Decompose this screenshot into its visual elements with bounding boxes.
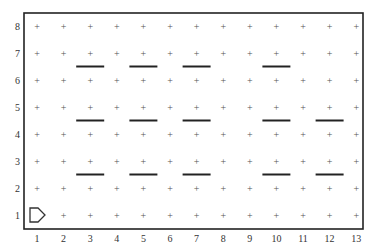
column-label: 7 bbox=[194, 233, 199, 244]
grid-point-marker: + bbox=[327, 210, 333, 221]
grid-world-canvas: ++++++++++++++++++++++++++++++++++++++++… bbox=[0, 0, 387, 252]
agent bbox=[30, 208, 45, 222]
agent-arrow-icon bbox=[30, 208, 45, 222]
grid-point-marker: + bbox=[87, 21, 93, 32]
grid-point-marker: + bbox=[167, 210, 173, 221]
grid-point-marker: + bbox=[114, 183, 120, 194]
x-axis-labels: 12345678910111213 bbox=[35, 233, 362, 244]
grid-point-marker: + bbox=[247, 75, 253, 86]
grid-point-marker: + bbox=[114, 156, 120, 167]
grid-point-marker: + bbox=[194, 102, 200, 113]
grid-point-marker: + bbox=[87, 183, 93, 194]
column-label: 2 bbox=[61, 233, 66, 244]
grid-point-marker: + bbox=[61, 102, 67, 113]
grid-point-marker: + bbox=[327, 21, 333, 32]
grid-point-marker: + bbox=[274, 156, 280, 167]
grid-point-marker: + bbox=[247, 21, 253, 32]
grid-point-marker: + bbox=[141, 75, 147, 86]
row-label: 1 bbox=[15, 210, 20, 221]
grid-point-marker: + bbox=[167, 48, 173, 59]
grid-point-marker: + bbox=[274, 75, 280, 86]
grid-point-marker: + bbox=[220, 129, 226, 140]
grid-point-marker: + bbox=[274, 183, 280, 194]
grid-point-marker: + bbox=[353, 75, 359, 86]
grid-point-marker: + bbox=[34, 129, 40, 140]
grid-point-marker: + bbox=[247, 156, 253, 167]
grid-point-marker: + bbox=[300, 183, 306, 194]
row-label: 3 bbox=[15, 156, 20, 167]
grid-point-marker: + bbox=[353, 102, 359, 113]
grid-point-marker: + bbox=[34, 102, 40, 113]
grid-point-marker: + bbox=[247, 183, 253, 194]
grid-point-marker: + bbox=[34, 21, 40, 32]
grid-point-marker: + bbox=[300, 21, 306, 32]
grid-point-marker: + bbox=[353, 183, 359, 194]
grid-point-marker: + bbox=[167, 183, 173, 194]
grid-point-marker: + bbox=[194, 183, 200, 194]
grid-point-marker: + bbox=[141, 129, 147, 140]
grid-point-marker: + bbox=[353, 21, 359, 32]
grid-point-marker: + bbox=[114, 129, 120, 140]
grid-point-marker: + bbox=[353, 156, 359, 167]
column-label: 8 bbox=[221, 233, 226, 244]
grid-point-marker: + bbox=[87, 210, 93, 221]
row-label: 7 bbox=[15, 48, 20, 59]
grid-point-marker: + bbox=[353, 129, 359, 140]
grid-point-marker: + bbox=[61, 183, 67, 194]
grid-point-marker: + bbox=[87, 102, 93, 113]
grid-world-diagram: ++++++++++++++++++++++++++++++++++++++++… bbox=[0, 0, 387, 252]
grid-point-marker: + bbox=[300, 156, 306, 167]
column-label: 5 bbox=[141, 233, 146, 244]
grid-point-marker: + bbox=[194, 21, 200, 32]
column-label: 4 bbox=[114, 233, 119, 244]
grid-point-marker: + bbox=[274, 48, 280, 59]
grid-point-marker: + bbox=[327, 75, 333, 86]
grid-point-marker: + bbox=[274, 210, 280, 221]
grid-point-marker: + bbox=[114, 210, 120, 221]
column-label: 1 bbox=[35, 233, 40, 244]
grid-point-marker: + bbox=[114, 48, 120, 59]
grid-point-marker: + bbox=[194, 129, 200, 140]
grid-point-marker: + bbox=[141, 156, 147, 167]
grid-point-marker: + bbox=[300, 129, 306, 140]
row-label: 4 bbox=[15, 129, 20, 140]
grid-point-marker: + bbox=[327, 183, 333, 194]
grid-point-marker: + bbox=[114, 102, 120, 113]
grid-point-marker: + bbox=[61, 75, 67, 86]
grid-point-marker: + bbox=[87, 48, 93, 59]
row-label: 8 bbox=[15, 21, 20, 32]
grid-point-marker: + bbox=[87, 156, 93, 167]
grid-point-marker: + bbox=[247, 210, 253, 221]
grid-point-marker: + bbox=[353, 48, 359, 59]
column-label: 9 bbox=[247, 233, 252, 244]
grid-point-marker: + bbox=[34, 48, 40, 59]
grid-point-marker: + bbox=[34, 183, 40, 194]
grid-point-marker: + bbox=[61, 48, 67, 59]
grid-point-marker: + bbox=[327, 156, 333, 167]
grid-point-marker: + bbox=[194, 156, 200, 167]
grid-point-marker: + bbox=[34, 75, 40, 86]
grid-point-marker: + bbox=[61, 210, 67, 221]
grid-point-marker: + bbox=[300, 48, 306, 59]
grid-point-marker: + bbox=[167, 129, 173, 140]
grid-point-marker: + bbox=[61, 21, 67, 32]
grid-point-marker: + bbox=[87, 75, 93, 86]
grid-point-marker: + bbox=[300, 75, 306, 86]
row-label: 5 bbox=[15, 102, 20, 113]
column-label: 12 bbox=[325, 233, 335, 244]
grid-point-marker: + bbox=[220, 75, 226, 86]
grid-point-marker: + bbox=[34, 156, 40, 167]
y-axis-labels: 12345678 bbox=[15, 21, 20, 221]
grid-point-marker: + bbox=[194, 210, 200, 221]
grid-point-marker: + bbox=[141, 48, 147, 59]
grid-point-marker: + bbox=[327, 102, 333, 113]
grid-point-marker: + bbox=[220, 48, 226, 59]
grid-point-marker: + bbox=[167, 156, 173, 167]
row-label: 2 bbox=[15, 183, 20, 194]
column-label: 6 bbox=[168, 233, 173, 244]
grid-point-marker: + bbox=[141, 102, 147, 113]
grid-point-marker: + bbox=[247, 129, 253, 140]
column-label: 3 bbox=[88, 233, 93, 244]
grid-point-marker: + bbox=[274, 102, 280, 113]
grid-point-marker: + bbox=[61, 156, 67, 167]
